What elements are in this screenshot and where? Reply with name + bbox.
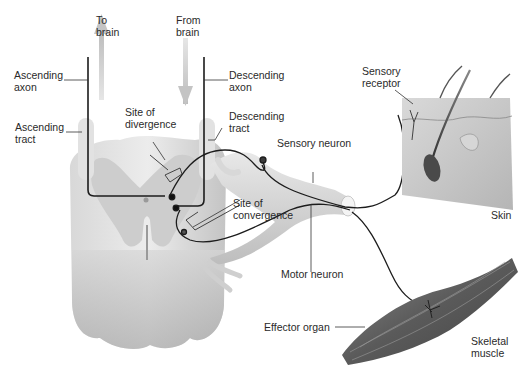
from-brain-arrow bbox=[178, 38, 193, 106]
label-descending-tract: Descending tract bbox=[229, 110, 284, 134]
label-skin: Skin bbox=[491, 209, 511, 221]
label-to-brain: To brain bbox=[96, 14, 119, 38]
label-from-brain: From brain bbox=[176, 14, 201, 38]
label-skeletal-muscle: Skeletal muscle bbox=[471, 335, 508, 359]
label-effector-organ: Effector organ bbox=[264, 321, 330, 333]
label-sensory-receptor: Sensory receptor bbox=[362, 65, 401, 89]
label-site-of-convergence: Site of convergence bbox=[233, 197, 293, 221]
diagram-artwork bbox=[0, 0, 527, 373]
neural-pathway-diagram: To brain From brain Ascending axon Ascen… bbox=[0, 0, 527, 373]
label-ascending-tract: Ascending tract bbox=[15, 121, 64, 145]
label-sensory-neuron: Sensory neuron bbox=[277, 137, 351, 149]
spinal-cord bbox=[70, 118, 226, 349]
label-site-of-divergence: Site of divergence bbox=[125, 106, 176, 130]
label-descending-axon: Descending axon bbox=[229, 69, 284, 93]
label-ascending-axon: Ascending axon bbox=[14, 69, 63, 93]
label-motor-neuron: Motor neuron bbox=[281, 268, 343, 280]
skin-block bbox=[402, 66, 513, 210]
